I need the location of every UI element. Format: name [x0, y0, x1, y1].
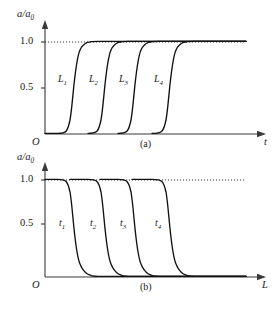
panel-a-x-axis-label: t: [264, 137, 267, 148]
figure-container: a/a0 1.0 0.5 O t L1 L2 L3 L4 (a): [0, 0, 280, 316]
panel-a-ytick-label-upper: 1.0: [20, 36, 33, 47]
panel-b-ytick-label-lower: 0.5: [20, 218, 33, 229]
panel-a-curve-label-L2: L2: [89, 74, 98, 87]
panel-b-curve-label-t3: t3: [120, 218, 126, 231]
panel-b-curve-t4: [132, 179, 246, 276]
panel-a: a/a0 1.0 0.5 O t L1 L2 L3 L4 (a): [0, 0, 280, 158]
panel-a-curve-label-L1: L1: [58, 74, 67, 87]
panel-a-curve-L4: [152, 41, 246, 133]
panel-a-curve-L3: [118, 41, 246, 133]
panel-b-caption: (b): [140, 282, 152, 292]
panel-a-y-axis-label: a/a0: [17, 9, 34, 22]
panel-b-x-axis-label: L: [262, 280, 268, 291]
panel-b-curve-label-t1: t1: [59, 218, 65, 231]
panel-a-plot: [0, 0, 280, 158]
panel-b: a/a0 1.0 0.5 O L t1 t2 t3 t4 (b): [0, 152, 280, 316]
panel-a-y-axis-arrow: [42, 20, 48, 29]
panel-b-curve-label-t4: t4: [155, 218, 161, 231]
panel-a-curve-L1: [58, 41, 246, 133]
panel-b-y-axis-arrow: [42, 162, 48, 171]
panel-a-curve-label-L3: L3: [119, 74, 128, 87]
panel-a-ytick-label-lower: 0.5: [20, 82, 33, 93]
panel-a-origin-label: O: [32, 137, 40, 148]
panel-b-origin-label: O: [32, 280, 40, 291]
panel-b-ytick-label-upper: 1.0: [20, 174, 33, 185]
panel-a-caption: (a): [140, 139, 151, 149]
panel-b-curve-label-t2: t2: [90, 218, 96, 231]
panel-b-curve-t1: [45, 179, 246, 276]
panel-a-curve-L2: [88, 41, 246, 133]
panel-b-y-axis-label: a/a0: [17, 152, 34, 165]
panel-a-curve-label-L4: L4: [154, 74, 163, 87]
